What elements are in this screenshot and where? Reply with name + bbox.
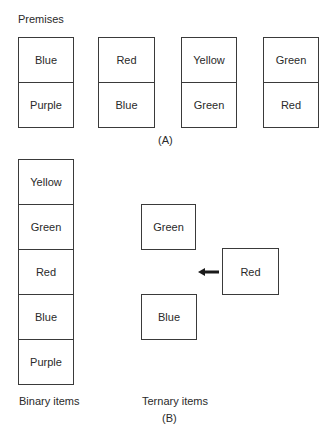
premise-3-bottom: Green [182,82,236,127]
premise-2-top: Red [99,38,154,82]
premise-2-bottom: Blue [99,82,154,127]
premises-title: Premises [18,13,64,26]
premise-3-top: Yellow [182,38,236,82]
premise-4-bottom: Red [264,82,318,127]
binary-item: Red [19,249,73,294]
premise-pair-1: Blue Purple [18,37,74,128]
binary-items-label: Binary items [19,395,80,408]
binary-item: Green [19,204,73,249]
arrow-shaft [204,271,219,274]
binary-items-stack: Yellow Green Red Blue Purple [18,159,74,385]
premise-1-top: Blue [19,38,73,82]
arrow-head [198,268,205,276]
binary-item: Purple [19,339,73,384]
ternary-top-box: Green [141,204,196,250]
premise-4-top: Green [264,38,318,82]
premise-pair-2: Red Blue [98,37,155,128]
premise-pair-3: Yellow Green [181,37,237,128]
ternary-bottom-box: Blue [141,294,197,340]
caption-a: (A) [158,134,173,147]
binary-item: Blue [19,294,73,339]
binary-item: Yellow [19,160,73,204]
caption-b: (B) [162,412,177,425]
ternary-middle-box: Red [222,248,279,295]
premise-1-bottom: Purple [19,82,73,127]
ternary-items-label: Ternary items [142,395,208,408]
left-arrow-icon [198,267,222,277]
premise-pair-4: Green Red [263,37,319,128]
